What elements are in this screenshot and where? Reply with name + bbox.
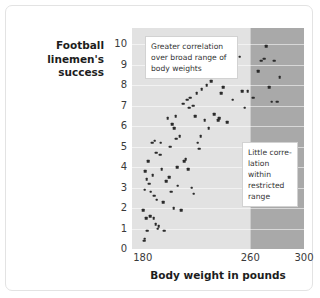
data-point [220, 92, 223, 95]
x-tick-label: 260 [241, 253, 260, 263]
data-point [201, 88, 204, 91]
data-point [218, 117, 221, 120]
restricted-range-band [250, 28, 304, 249]
data-point [178, 135, 181, 138]
data-point [163, 229, 166, 232]
gridline-horizontal [132, 85, 304, 86]
data-point [192, 104, 195, 107]
annotation-broad-range: Greater correlation over broad range of … [145, 36, 238, 79]
data-point [257, 70, 260, 73]
data-point [193, 192, 196, 195]
y-tick-label: 8 [121, 80, 127, 90]
data-point [175, 137, 178, 140]
y-tick-label: 9 [121, 60, 127, 70]
data-point [197, 141, 200, 144]
figure-frame: Football linemen's success 012345678910 … [5, 5, 313, 291]
data-point [172, 207, 175, 210]
data-point [169, 145, 172, 148]
data-point [176, 166, 179, 169]
data-point [156, 199, 159, 202]
data-point [182, 102, 185, 105]
data-point [147, 160, 150, 163]
data-point [143, 188, 146, 191]
data-point [150, 190, 153, 193]
data-point [154, 223, 157, 226]
data-point [273, 59, 276, 62]
data-point [187, 168, 190, 171]
gridline-horizontal [132, 106, 304, 107]
data-point [238, 55, 241, 58]
data-point [231, 98, 234, 101]
data-point [165, 180, 168, 183]
data-point [268, 86, 271, 89]
data-point [210, 80, 213, 83]
data-point [170, 190, 173, 193]
data-point [260, 59, 263, 62]
gridline-horizontal [132, 126, 304, 127]
data-point [279, 76, 282, 79]
data-point [263, 57, 266, 60]
gridline-vertical [250, 28, 251, 249]
data-point [146, 229, 149, 232]
data-point [145, 178, 148, 181]
x-tick-label: 300 [294, 253, 313, 263]
x-axis-title: Body weight in pounds [132, 269, 304, 281]
gridline-horizontal [132, 208, 304, 209]
x-tick-label: 180 [133, 253, 152, 263]
data-point [152, 174, 155, 177]
data-point [252, 96, 255, 99]
data-point [149, 215, 152, 218]
data-point [145, 217, 148, 220]
data-point [265, 45, 268, 48]
y-tick-label: 3 [121, 183, 127, 193]
data-point [205, 84, 208, 87]
data-point [198, 147, 201, 150]
y-axis-title: Football linemen's success [20, 39, 104, 80]
data-point [241, 90, 244, 93]
data-point [143, 237, 146, 240]
data-point [276, 100, 279, 103]
y-tick-label: 2 [121, 203, 127, 213]
data-point [144, 170, 147, 173]
data-point [199, 135, 202, 138]
y-axis-ticks: 012345678910 [106, 28, 127, 249]
y-tick-label: 6 [121, 121, 127, 131]
data-point [203, 119, 206, 122]
data-point [159, 154, 162, 157]
data-point [188, 107, 191, 110]
annotation-restricted-range: Little corre-lation within restricted ra… [242, 142, 298, 207]
y-tick-label: 4 [121, 162, 127, 172]
data-point [160, 168, 163, 171]
data-point [155, 152, 158, 155]
y-tick-label: 0 [121, 244, 127, 254]
data-point [171, 123, 174, 126]
y-tick-label: 10 [114, 39, 127, 49]
data-point [168, 176, 171, 179]
data-point [160, 141, 163, 144]
x-axis-ticks: 180260300 [132, 253, 304, 267]
data-point [244, 107, 247, 110]
data-point [176, 184, 179, 187]
y-tick-label: 5 [121, 142, 127, 152]
data-point [174, 115, 177, 118]
data-point [270, 100, 273, 103]
data-point [142, 209, 145, 212]
data-point [194, 115, 197, 118]
data-point [191, 186, 194, 189]
data-point [166, 117, 169, 120]
y-tick-label: 1 [121, 224, 127, 234]
data-point [154, 139, 157, 142]
data-point [158, 225, 161, 228]
data-point [222, 86, 225, 89]
data-point [195, 92, 198, 95]
y-tick-label: 7 [121, 101, 127, 111]
data-point [207, 127, 210, 130]
data-point [184, 158, 187, 161]
data-point [189, 96, 192, 99]
data-point [152, 217, 155, 220]
data-point [180, 209, 183, 212]
data-point [186, 98, 189, 101]
data-point [173, 127, 176, 130]
data-point [226, 121, 229, 124]
data-point [153, 194, 156, 197]
